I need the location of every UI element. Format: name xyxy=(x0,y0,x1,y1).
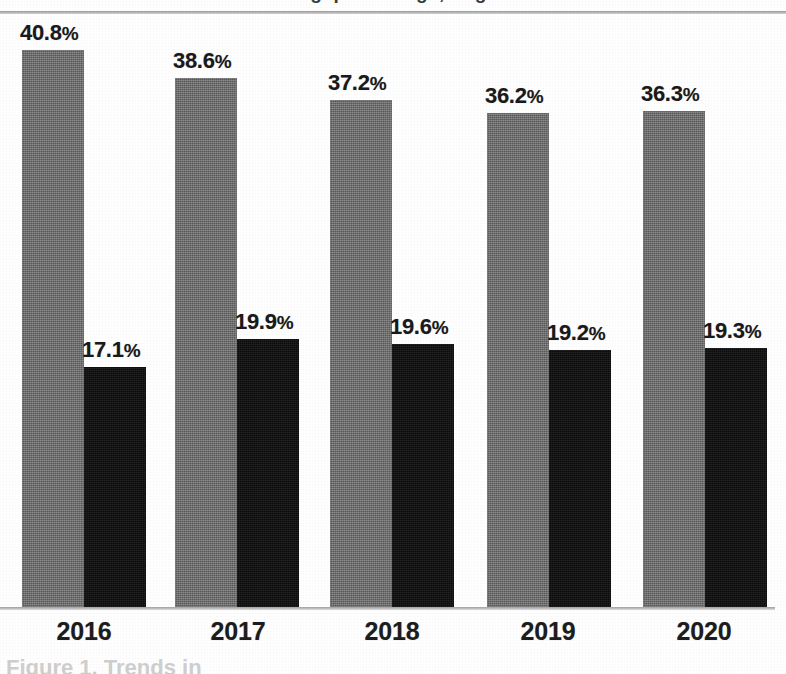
bar-gray-2018 xyxy=(330,100,392,607)
bar-dark-2019 xyxy=(549,350,611,607)
value-label-dark-2020: 19.3% xyxy=(703,318,761,344)
figure-caption-text: Figure 1. Trends in xyxy=(6,655,786,674)
value-label-gray-2019: 36.2% xyxy=(485,83,543,109)
bar-gray-2020 xyxy=(643,111,705,607)
x-tick-label-2018: 2018 xyxy=(342,617,442,646)
bar-dark-2017 xyxy=(237,339,299,607)
bar-dark-2020 xyxy=(705,348,767,607)
bar-dark-2016 xyxy=(84,367,146,607)
chart-title-text: avg. percentage, large xyxy=(0,0,786,3)
x-axis-line xyxy=(0,607,775,610)
chart-title-clipped: avg. percentage, large xyxy=(0,0,786,3)
figure-caption-clipped: Figure 1. Trends in xyxy=(0,655,786,674)
value-label-gray-2016: 40.8% xyxy=(20,20,78,46)
value-label-dark-2017: 19.9% xyxy=(235,309,293,335)
x-tick-label-2019: 2019 xyxy=(498,617,598,646)
x-tick-label-2016: 2016 xyxy=(34,617,134,646)
value-label-gray-2017: 38.6% xyxy=(173,48,231,74)
value-label-dark-2016: 17.1% xyxy=(82,337,140,363)
value-label-gray-2018: 37.2% xyxy=(328,70,386,96)
x-axis-tick-labels: 20162017201820192020 xyxy=(0,617,786,651)
bar-gray-2019 xyxy=(487,113,549,607)
bar-gray-2017 xyxy=(175,78,237,607)
value-label-dark-2018: 19.6% xyxy=(390,314,448,340)
bar-dark-2018 xyxy=(392,344,454,607)
bar-chart-plot-area: 40.8%17.1%38.6%19.9%37.2%19.6%36.2%19.2%… xyxy=(0,14,786,607)
x-tick-label-2017: 2017 xyxy=(188,617,288,646)
value-label-dark-2019: 19.2% xyxy=(547,320,605,346)
x-tick-label-2020: 2020 xyxy=(654,617,754,646)
bar-gray-2016 xyxy=(22,50,84,607)
value-label-gray-2020: 36.3% xyxy=(641,81,699,107)
